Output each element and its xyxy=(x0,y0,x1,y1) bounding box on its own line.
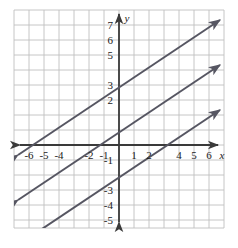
coordinate-plane-figure: -6 -5 -4 -2 -1 1 2 4 5 6 7 6 5 3 2 -1 -3… xyxy=(0,0,238,248)
x-tick-label-1: 1 xyxy=(131,149,137,161)
x-tick-label-neg2: -2 xyxy=(84,149,93,161)
y-tick-label-3: 3 xyxy=(108,79,114,91)
x-tick-label-neg6: -6 xyxy=(24,149,34,161)
y-tick-label-neg4: -4 xyxy=(104,199,114,211)
x-axis-label: x xyxy=(219,149,225,161)
x-tick-label-5: 5 xyxy=(191,149,197,161)
x-tick-label-6: 6 xyxy=(206,149,212,161)
y-axis-label: y xyxy=(124,12,130,24)
x-tick-label-2: 2 xyxy=(146,149,152,161)
y-tick-label-neg3: -3 xyxy=(104,184,114,196)
y-tick-label-6: 6 xyxy=(108,34,114,46)
x-tick-label-neg4: -4 xyxy=(54,149,64,161)
x-tick-label-neg5: -5 xyxy=(39,149,49,161)
y-tick-label-neg1: -1 xyxy=(104,154,113,166)
y-tick-label-5: 5 xyxy=(108,49,114,61)
graph-canvas: -6 -5 -4 -2 -1 1 2 4 5 6 7 6 5 3 2 -1 -3… xyxy=(0,0,238,248)
y-tick-label-7: 7 xyxy=(108,19,114,31)
x-tick-label-4: 4 xyxy=(176,149,182,161)
y-tick-label-2: 2 xyxy=(108,94,114,106)
y-tick-label-neg5: -5 xyxy=(104,214,114,226)
